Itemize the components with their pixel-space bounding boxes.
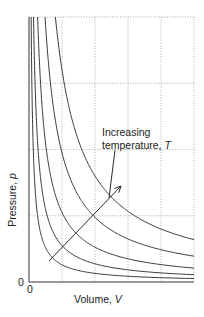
x-origin-label: 0 [27, 283, 33, 295]
annotation-line1: Increasing [102, 126, 151, 138]
annotation-line2: temperature, T [102, 139, 172, 151]
y-axis-variable: p [6, 173, 18, 180]
x-axis-label-text: Volume, [74, 293, 115, 305]
annotation-variable: T [164, 139, 172, 151]
isotherm-chart: Increasing temperature, T Volume, V Pres… [0, 0, 204, 317]
annotation-leader-line [109, 150, 115, 198]
arrow-shaft [49, 186, 121, 261]
y-axis-label: Pressure, p [6, 173, 18, 227]
y-origin-label: 0 [18, 276, 24, 288]
y-axis-label-text: Pressure, [6, 179, 18, 227]
annotation-text: temperature, [102, 139, 164, 151]
x-axis-label: Volume, V [74, 293, 123, 305]
temperature-arrow [49, 186, 121, 261]
x-axis-variable: V [115, 293, 123, 305]
